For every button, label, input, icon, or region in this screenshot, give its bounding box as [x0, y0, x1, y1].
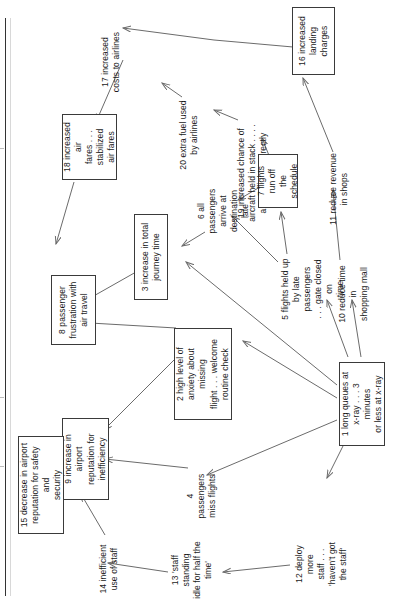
edge-16-17 [123, 28, 293, 47]
node-8-label: 8 passenger frustration with air travel [57, 282, 90, 339]
node-1-label: 1 long queues at x-ray . . . 3 minutes o… [340, 368, 384, 440]
node-17-label: 17 increased costs to airlines [100, 12, 122, 112]
node-12[interactable]: 12 deploy more staff . . . 'haven't got … [294, 536, 339, 592]
node-4-label: 4 passengers miss flights [185, 470, 218, 522]
node-7[interactable]: 7 flights run off the schedule [258, 154, 298, 208]
diagram-canvas: 17 increased costs to airlines 16 increa… [0, 0, 419, 612]
edge-20-17 [162, 83, 182, 97]
node-7-label: 7 flights run off the schedule [256, 160, 300, 202]
node-6[interactable]: 6 all passengers arrive at destination l… [196, 182, 240, 240]
node-16[interactable]: 16 increased landing charges [292, 7, 335, 75]
node-1[interactable]: 1 long queues at x-ray . . . 3 minutes o… [339, 362, 385, 446]
node-16-label: 16 increased landing charges [297, 13, 330, 69]
node-11[interactable]: 11 reduce revenue in shops [328, 153, 360, 225]
edge-14-9 [81, 494, 105, 535]
edge-1-2 [243, 341, 337, 398]
node-17[interactable]: 17 increased costs to airlines [100, 12, 132, 112]
node-13[interactable]: 13 'staff standing idle for half the tim… [170, 540, 215, 600]
edge-5-7 [281, 212, 287, 254]
node-20[interactable]: 20 extra fuel used by airlines [178, 98, 210, 172]
node-8[interactable]: 8 passenger frustration with air travel [51, 275, 96, 345]
node-4[interactable]: 4 passengers miss flights [185, 470, 217, 522]
node-3-label: 3 increase in total journey time [140, 223, 162, 292]
node-9-label: 9 increase in airport reputation for ine… [63, 424, 107, 494]
node-10-label: 10 reduce time in shopping mall [337, 265, 370, 323]
edge-18-8 [56, 182, 74, 244]
edge-19-20 [214, 110, 238, 120]
node-11-label: 11 reduce revenue in shops [328, 153, 350, 225]
node-3[interactable]: 3 increase in total journey time [134, 214, 168, 300]
edge-4-9 [105, 459, 188, 468]
node-14[interactable]: 14 inefficient use of staff [98, 542, 130, 596]
edge-11-16 [303, 78, 333, 152]
edge-2-9 [104, 358, 176, 430]
node-2-label: 2 high level of anxiety about missing fl… [175, 334, 230, 414]
node-18[interactable]: 18 increased air fares . . . stabilized … [62, 114, 117, 180]
node-12-label: 12 deploy more staff . . . 'haven't got … [294, 536, 349, 592]
node-20-label: 20 extra fuel used by airlines [178, 98, 200, 172]
node-15-label: 15 decrease in airport reputation for sa… [19, 442, 63, 528]
node-15[interactable]: 15 decrease in airport reputation for sa… [18, 436, 64, 534]
node-9[interactable]: 9 increase in airport reputation for ine… [62, 418, 109, 500]
node-2[interactable]: 2 high level of anxiety about missing fl… [174, 328, 232, 420]
node-18-label: 18 increased air fares . . . stabilized … [62, 120, 117, 174]
edge-1-4 [207, 420, 337, 475]
node-6-label: 6 all passengers arrive at destination l… [196, 182, 251, 240]
edge-12-13 [223, 565, 290, 572]
node-10[interactable]: 10 reduce time in shopping mall [337, 265, 369, 323]
node-5[interactable]: 5 flights held up by late passengers . .… [280, 258, 337, 320]
edge-1-12 [327, 444, 344, 478]
node-13-label: 13 'staff standing idle for half the tim… [170, 540, 214, 600]
node-14-label: 14 inefficient use of staff [98, 542, 120, 596]
